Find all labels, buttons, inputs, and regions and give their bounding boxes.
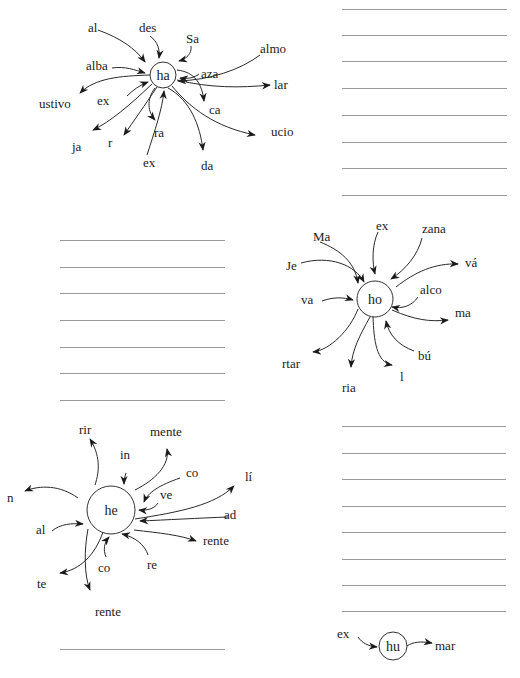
center-nodes: hahohehu xyxy=(87,62,407,660)
ho-incoming-word: va xyxy=(301,292,314,307)
word-family-worksheet: aldesSaalbaalmoazaexexustivojarracalaruc… xyxy=(0,0,520,678)
he-outgoing-word: rente xyxy=(203,533,229,548)
ha-outgoing-word: ustivo xyxy=(39,96,71,111)
ho-incoming-word: Je xyxy=(286,258,297,273)
center-node-ha: ha xyxy=(150,62,176,88)
ho-outgoing-word: l xyxy=(400,369,404,384)
he-incoming-word: re xyxy=(147,557,157,572)
he-incoming-word: al xyxy=(36,522,46,537)
center-node-hu: hu xyxy=(379,632,407,660)
he-incoming-word: co xyxy=(186,465,198,480)
center-node-ho: ho xyxy=(357,281,393,317)
ho-incoming-word: bú xyxy=(418,348,432,363)
diagram-labels: aldesSaalbaalmoazaexexustivojarracalaruc… xyxy=(7,20,478,653)
ho-incoming-word: zana xyxy=(422,221,446,236)
ho-outgoing-word: ria xyxy=(342,380,356,395)
he-outgoing-word: mente xyxy=(150,424,182,439)
ha-incoming-word: al xyxy=(88,20,98,35)
node-label: ha xyxy=(156,68,170,83)
node-label: hu xyxy=(386,639,400,654)
ha-outgoing-word: ja xyxy=(71,139,82,154)
he-outgoing-word: rir xyxy=(79,422,92,437)
ha-incoming-word: ex xyxy=(97,93,110,108)
ha-outgoing-word: ucio xyxy=(271,124,293,139)
ho-incoming-word: alco xyxy=(420,282,442,297)
he-outgoing-word: n xyxy=(7,490,14,505)
he-incoming-word: in xyxy=(120,447,131,462)
ho-outgoing-word: vá xyxy=(465,255,478,270)
ha-outgoing-word: da xyxy=(201,158,214,173)
ha-outgoing-word: ra xyxy=(154,125,164,140)
ho-incoming-word: Ma xyxy=(313,229,331,244)
hu-incoming-word: ex xyxy=(337,626,350,641)
node-label: ho xyxy=(368,292,382,307)
node-label: he xyxy=(104,503,117,518)
he-outgoing-word: te xyxy=(37,576,47,591)
ho-incoming-word: ex xyxy=(376,218,389,233)
he-outgoing-word: lí xyxy=(245,469,253,484)
ha-incoming-word: Sa xyxy=(186,31,199,46)
ha-incoming-word: des xyxy=(139,20,156,35)
hu-outgoing-word: mar xyxy=(435,638,456,653)
he-incoming-word: ve xyxy=(160,487,173,502)
ha-incoming-word: aza xyxy=(201,66,219,81)
ho-outgoing-word: rtar xyxy=(282,356,301,371)
ha-incoming-word: ex xyxy=(143,155,156,170)
he-incoming-word: ad xyxy=(224,507,237,522)
ha-outgoing-word: lar xyxy=(274,77,288,92)
ha-incoming-word: alba xyxy=(86,58,108,73)
ha-outgoing-word: r xyxy=(108,135,113,150)
ha-outgoing-word: ca xyxy=(209,102,221,117)
writing-lines xyxy=(60,10,507,650)
ho-outgoing-word: ma xyxy=(455,305,471,320)
center-node-he: he xyxy=(87,486,135,534)
he-outgoing-word: rente xyxy=(95,604,121,619)
he-incoming-word: co xyxy=(98,560,110,575)
ha-incoming-word: almo xyxy=(260,41,286,56)
